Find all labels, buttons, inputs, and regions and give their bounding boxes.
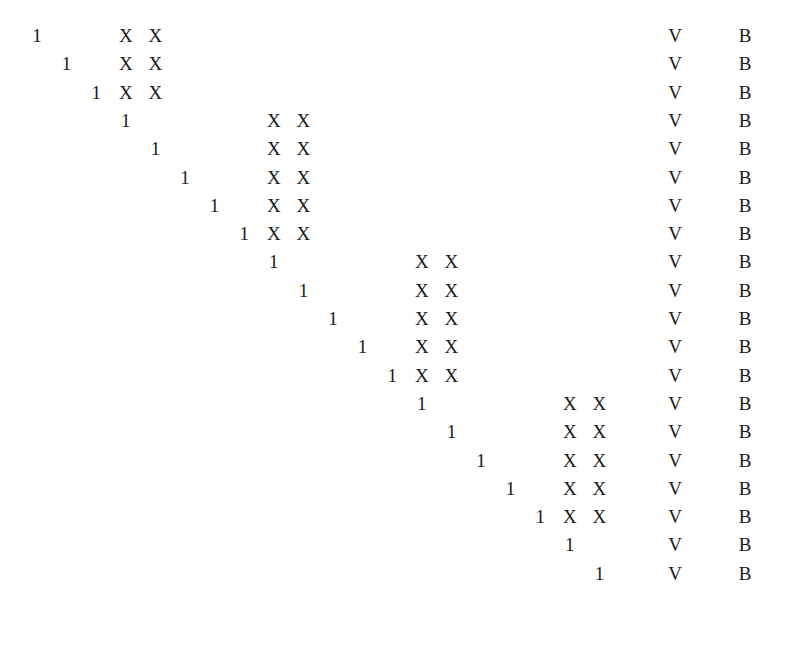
v-entry: V	[665, 252, 685, 272]
b-entry: B	[735, 507, 755, 527]
diagonal-one: 1	[323, 309, 343, 329]
v-entry: V	[665, 309, 685, 329]
diagonal-one: 1	[530, 507, 550, 527]
v-entry: V	[665, 54, 685, 74]
x-entry: X	[560, 394, 580, 414]
b-entry: B	[735, 54, 755, 74]
diagonal-one: 1	[86, 83, 106, 103]
v-entry: V	[665, 26, 685, 46]
x-entry: X	[116, 54, 136, 74]
x-entry: X	[441, 337, 461, 357]
b-entry: B	[735, 252, 755, 272]
diagonal-one: 1	[145, 139, 165, 159]
diagonal-one: 1	[471, 451, 491, 471]
x-entry: X	[145, 83, 165, 103]
v-entry: V	[665, 139, 685, 159]
x-entry: X	[264, 139, 284, 159]
x-entry: X	[589, 507, 609, 527]
diagonal-one: 1	[234, 224, 254, 244]
v-entry: V	[665, 535, 685, 555]
v-entry: V	[665, 394, 685, 414]
x-entry: X	[589, 422, 609, 442]
b-entry: B	[735, 479, 755, 499]
x-entry: X	[441, 309, 461, 329]
v-entry: V	[665, 451, 685, 471]
x-entry: X	[145, 54, 165, 74]
v-entry: V	[665, 422, 685, 442]
diagonal-one: 1	[175, 168, 195, 188]
b-entry: B	[735, 83, 755, 103]
x-entry: X	[293, 139, 313, 159]
diagonal-one: 1	[441, 422, 461, 442]
b-entry: B	[735, 366, 755, 386]
b-entry: B	[735, 337, 755, 357]
x-entry: X	[412, 309, 432, 329]
x-entry: X	[412, 366, 432, 386]
diagonal-one: 1	[205, 196, 225, 216]
x-entry: X	[441, 252, 461, 272]
v-entry: V	[665, 281, 685, 301]
b-entry: B	[735, 309, 755, 329]
x-entry: X	[560, 422, 580, 442]
b-entry: B	[735, 394, 755, 414]
b-entry: B	[735, 564, 755, 584]
x-entry: X	[589, 451, 609, 471]
x-entry: X	[264, 111, 284, 131]
diagonal-one: 1	[382, 366, 402, 386]
x-entry: X	[116, 26, 136, 46]
x-entry: X	[412, 252, 432, 272]
x-entry: X	[412, 281, 432, 301]
v-entry: V	[665, 479, 685, 499]
x-entry: X	[264, 168, 284, 188]
x-entry: X	[560, 451, 580, 471]
diagonal-one: 1	[116, 111, 136, 131]
x-entry: X	[560, 507, 580, 527]
diagonal-one: 1	[293, 281, 313, 301]
x-entry: X	[293, 224, 313, 244]
v-entry: V	[665, 111, 685, 131]
b-entry: B	[735, 451, 755, 471]
x-entry: X	[293, 168, 313, 188]
x-entry: X	[441, 366, 461, 386]
v-entry: V	[665, 168, 685, 188]
b-entry: B	[735, 26, 755, 46]
sparse-matrix-pattern: 1XXVB1XXVB1XXVB1XXVB1XXVB1XXVB1XXVB1XXVB…	[0, 0, 787, 650]
b-entry: B	[735, 111, 755, 131]
v-entry: V	[665, 564, 685, 584]
diagonal-one: 1	[560, 535, 580, 555]
diagonal-one: 1	[353, 337, 373, 357]
x-entry: X	[589, 479, 609, 499]
x-entry: X	[264, 196, 284, 216]
x-entry: X	[293, 111, 313, 131]
x-entry: X	[145, 26, 165, 46]
x-entry: X	[293, 196, 313, 216]
v-entry: V	[665, 83, 685, 103]
b-entry: B	[735, 139, 755, 159]
b-entry: B	[735, 535, 755, 555]
b-entry: B	[735, 224, 755, 244]
v-entry: V	[665, 224, 685, 244]
b-entry: B	[735, 422, 755, 442]
diagonal-one: 1	[57, 54, 77, 74]
diagonal-one: 1	[412, 394, 432, 414]
v-entry: V	[665, 366, 685, 386]
b-entry: B	[735, 168, 755, 188]
x-entry: X	[116, 83, 136, 103]
x-entry: X	[412, 337, 432, 357]
x-entry: X	[560, 479, 580, 499]
diagonal-one: 1	[589, 564, 609, 584]
x-entry: X	[264, 224, 284, 244]
v-entry: V	[665, 337, 685, 357]
v-entry: V	[665, 507, 685, 527]
b-entry: B	[735, 281, 755, 301]
x-entry: X	[589, 394, 609, 414]
diagonal-one: 1	[27, 26, 47, 46]
b-entry: B	[735, 196, 755, 216]
v-entry: V	[665, 196, 685, 216]
x-entry: X	[441, 281, 461, 301]
diagonal-one: 1	[264, 252, 284, 272]
diagonal-one: 1	[501, 479, 521, 499]
